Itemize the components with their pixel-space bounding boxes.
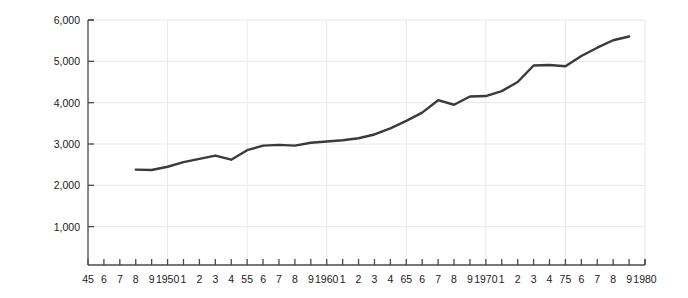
axes [88, 20, 645, 265]
data-series-line [136, 37, 629, 171]
gridlines [88, 20, 645, 265]
x-axis-ticks [88, 259, 645, 265]
chart-container: Per capita real GNP, 1972 dollars 6,0005… [0, 0, 688, 298]
y-axis-ticks [88, 20, 94, 227]
chart-plot [0, 0, 688, 298]
